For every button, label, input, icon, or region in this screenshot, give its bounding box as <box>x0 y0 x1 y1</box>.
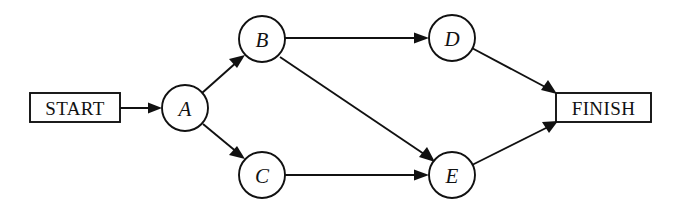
edge-d-to-finish <box>470 47 557 94</box>
node-d[interactable]: D <box>429 15 475 61</box>
arrowhead-c-e <box>414 170 429 181</box>
finish-label: FINISH <box>572 98 636 119</box>
edge-line-a-c <box>203 124 238 153</box>
edge-line-e-finish <box>470 126 550 166</box>
edge-b-to-d <box>285 33 429 44</box>
node-c[interactable]: C <box>239 152 285 198</box>
arrowhead-start-a <box>148 103 162 114</box>
terminal-start[interactable]: START <box>30 93 120 122</box>
node-label-d: D <box>443 27 459 51</box>
edge-a-to-b <box>202 55 245 93</box>
arrowhead-b-d <box>414 33 429 44</box>
edge-start-to-a <box>120 103 162 114</box>
edge-c-to-e <box>285 170 429 181</box>
network-canvas: START FINISH A B C D E <box>0 0 681 212</box>
node-a[interactable]: A <box>162 85 208 131</box>
edge-line-b-e <box>280 57 427 156</box>
node-e[interactable]: E <box>429 152 475 198</box>
arrowhead-d-finish <box>541 80 557 94</box>
node-label-a: A <box>177 97 192 121</box>
edge-e-to-finish <box>470 121 558 166</box>
edge-a-to-c <box>203 124 245 159</box>
node-label-e: E <box>445 164 459 188</box>
edge-line-d-finish <box>470 47 549 89</box>
arrowhead-b-e <box>419 147 435 162</box>
activity-network-diagram: START FINISH A B C D E <box>0 0 681 212</box>
node-b[interactable]: B <box>239 16 285 62</box>
start-label: START <box>45 98 105 119</box>
terminal-finish[interactable]: FINISH <box>556 93 651 122</box>
edge-b-to-e <box>280 57 435 162</box>
edge-line-a-b <box>202 61 238 93</box>
node-label-c: C <box>255 164 270 188</box>
node-label-b: B <box>256 28 269 52</box>
